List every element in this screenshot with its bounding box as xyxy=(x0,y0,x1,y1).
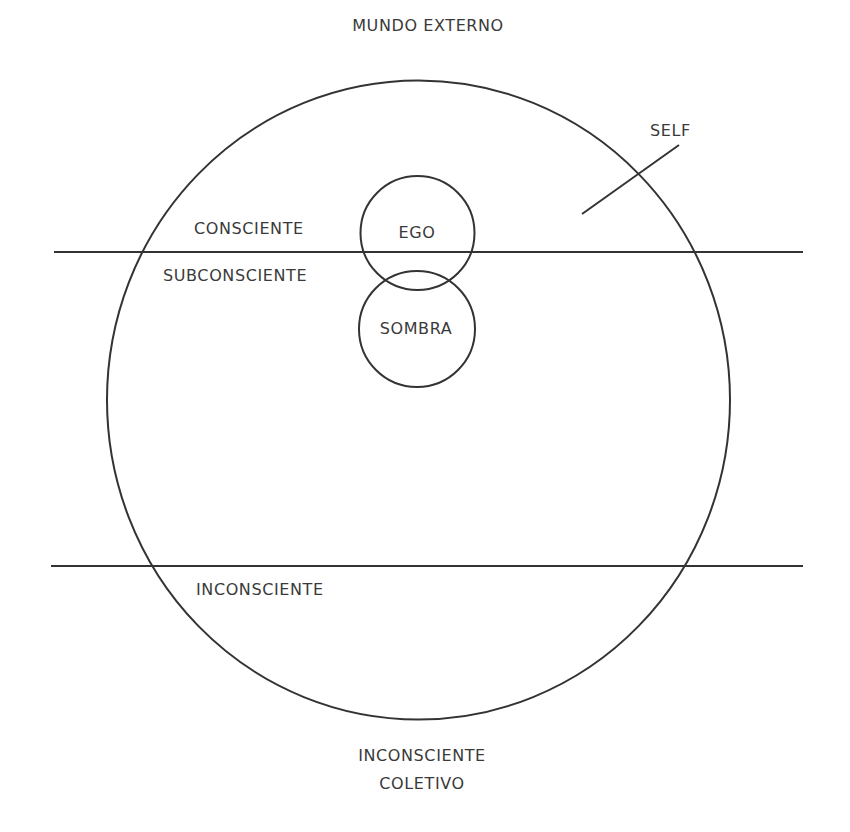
psyche-diagram xyxy=(0,0,850,832)
outer-world-label: MUNDO EXTERNO xyxy=(352,16,504,36)
shadow-label: SOMBRA xyxy=(380,319,453,339)
conscious-label: CONSCIENTE xyxy=(194,219,304,239)
subconscious-label: SUBCONSCIENTE xyxy=(163,266,307,286)
ego-label: EGO xyxy=(399,223,436,243)
unconscious-label: INCONSCIENTE xyxy=(196,580,324,600)
self-label: SELF xyxy=(650,121,691,141)
collective-unconscious-label-line1: INCONSCIENTE xyxy=(358,746,486,766)
collective-unconscious-label-line2: COLETIVO xyxy=(379,774,464,794)
